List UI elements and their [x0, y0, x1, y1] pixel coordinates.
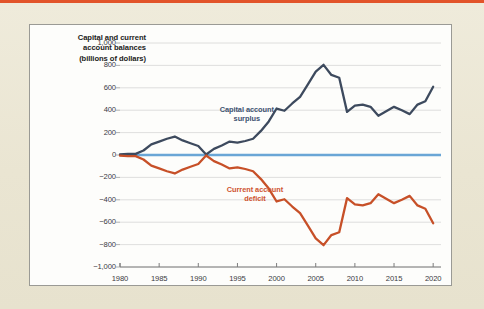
- series-label-current-line-2: deficit: [218, 194, 292, 203]
- series-label-capital-account: Capital account surplus: [210, 105, 284, 123]
- chart-figure: Capital and current account balances (bi…: [29, 24, 452, 286]
- chart-svg: [30, 25, 453, 287]
- series-label-capital-line-1: Capital account: [210, 105, 284, 114]
- series-label-capital-line-2: surplus: [210, 114, 284, 123]
- plot-area: [30, 25, 451, 285]
- series-label-current-account: Current account deficit: [218, 185, 292, 203]
- series-label-current-line-1: Current account: [218, 185, 292, 194]
